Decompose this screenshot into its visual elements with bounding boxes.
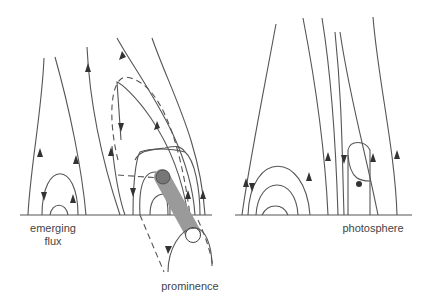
- emerging-flux-label-line2: flux: [18, 235, 88, 248]
- field-line: [28, 58, 44, 215]
- arrow-up-icon: [394, 150, 400, 159]
- photosphere-label: photosphere: [338, 222, 408, 235]
- flux-loop-small: [262, 206, 288, 215]
- right-panel: [235, 17, 412, 215]
- arrow-down-icon: [341, 155, 347, 164]
- arrow-up-icon: [85, 63, 91, 72]
- arrow-up-icon: [325, 152, 331, 161]
- arrow-down-icon: [249, 183, 255, 192]
- field-line: [348, 155, 370, 181]
- flux-loop: [42, 174, 78, 215]
- arrow-up-icon: [37, 148, 43, 157]
- field-line: [322, 18, 338, 215]
- field-line: [335, 32, 344, 215]
- field-line: [340, 32, 378, 215]
- arrow-down-icon: [130, 188, 136, 197]
- arrow-up-icon: [200, 190, 206, 199]
- dashed-field-line: [118, 175, 160, 178]
- field-line: [373, 17, 397, 215]
- arrow-up-icon: [154, 121, 160, 130]
- dashed-field-line: [198, 220, 213, 266]
- prominence-dot: [356, 181, 362, 187]
- prominence-body: [162, 177, 193, 233]
- arrow-up-icon: [70, 194, 76, 203]
- field-line: [112, 146, 125, 215]
- emerging-flux-label: emerging flux: [18, 222, 88, 248]
- prominence-top: [156, 170, 170, 184]
- arrow-up-icon: [306, 172, 312, 181]
- field-line: [55, 57, 86, 215]
- field-line: [303, 18, 328, 215]
- flux-loop-small: [50, 205, 68, 215]
- flux-loop: [256, 185, 298, 215]
- arrow-down-icon: [118, 123, 124, 132]
- emerging-flux-label-line1: emerging: [18, 222, 88, 235]
- flux-diagram: [0, 0, 425, 303]
- prominence-label: prominence: [158, 280, 222, 293]
- dashed-field-line: [140, 215, 164, 272]
- arrow-up-icon: [370, 153, 376, 162]
- arrow-down-icon: [41, 192, 47, 201]
- field-line: [87, 47, 120, 215]
